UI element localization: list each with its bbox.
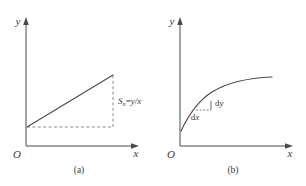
panel-b-origin-label: O [167, 148, 175, 160]
panel-a-y-axis-arrow-icon [23, 17, 29, 25]
dy-variable: y [219, 98, 224, 108]
panel-b-dx-label: dx [191, 112, 200, 122]
panel-a-y-axis-label: y [15, 15, 21, 27]
panel-b-y-axis-label: y [169, 15, 175, 27]
panel-a: y x O Sn=y/x (a) [13, 15, 141, 176]
panel-b: y x O dy dx (b) [167, 15, 293, 176]
panel-a-slope-annotation-text: Sn=y/x [118, 96, 141, 107]
panel-a-x-axis-label: x [133, 147, 139, 159]
panel-b-concave-curve [181, 77, 272, 131]
panel-a-linear-curve [27, 75, 113, 127]
dx-variable: x [194, 112, 199, 122]
panel-b-x-axis-label: x [287, 147, 293, 159]
panel-a-origin-label: O [13, 148, 21, 160]
panel-b-y-axis-arrow-icon [177, 17, 183, 25]
panel-a-caption: (a) [74, 165, 85, 176]
panel-a-slope-annotation: Sn=y/x [118, 96, 141, 107]
panel-b-caption: (b) [227, 165, 238, 176]
panel-b-dy-label: dy [215, 98, 224, 108]
figure-container: y x O Sn=y/x (a) [0, 0, 306, 186]
slope-expression: y/x [130, 96, 142, 106]
figure-svg: y x O Sn=y/x (a) [0, 0, 306, 186]
